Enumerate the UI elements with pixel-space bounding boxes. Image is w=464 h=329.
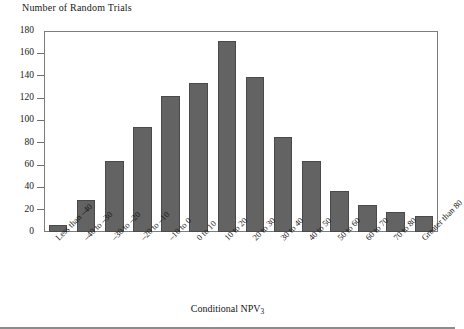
plot-area	[44, 31, 438, 232]
x-axis-title-text: Conditional NPV	[191, 303, 261, 314]
y-axis-tick	[37, 209, 44, 210]
x-axis-title-subscript: 3	[261, 307, 265, 316]
y-axis-tick-label: 80	[6, 138, 34, 148]
bar	[218, 41, 237, 232]
bar	[274, 137, 293, 232]
y-axis-tick-label: 20	[6, 205, 34, 215]
y-axis-tick	[37, 187, 44, 188]
y-axis-tick	[37, 75, 44, 76]
y-axis-tick	[37, 165, 44, 166]
y-axis-tick	[37, 53, 44, 54]
y-axis-tick-label: 180	[6, 26, 34, 36]
y-axis-tick	[37, 120, 44, 121]
y-axis-tick-label: 0	[6, 227, 34, 237]
bar	[246, 77, 265, 232]
y-axis-tick	[37, 98, 44, 99]
y-axis-tick-label: 40	[6, 182, 34, 192]
y-axis-title: Number of Random Trials	[22, 2, 132, 13]
y-axis-tick-label: 160	[6, 48, 34, 58]
y-axis-tick	[37, 142, 44, 143]
bar	[189, 83, 208, 232]
y-axis-tick-label: 140	[6, 71, 34, 81]
y-axis-tick-label: 60	[6, 160, 34, 170]
y-axis-tick-label: 120	[6, 93, 34, 103]
x-axis-title: Conditional NPV3	[0, 303, 455, 314]
y-axis-tick-label: 100	[6, 115, 34, 125]
